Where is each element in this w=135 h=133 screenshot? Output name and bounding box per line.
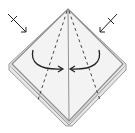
diamond-paper: [10, 9, 125, 125]
diagram-canvas: [0, 0, 135, 133]
origami-diagram: Diamond-shaped folded paper with center …: [0, 0, 135, 133]
left-push-arrow: [8, 14, 26, 32]
right-push-arrow: [100, 14, 117, 32]
